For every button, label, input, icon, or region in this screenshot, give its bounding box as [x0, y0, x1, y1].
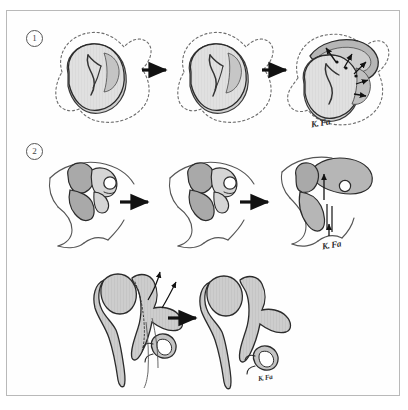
row2-panel3-group [281, 157, 372, 246]
row3-panel2-group [200, 276, 291, 389]
row2-panel1-group [49, 162, 134, 247]
row1-panel3-group [288, 34, 389, 125]
panel-number-2: 2 [26, 143, 43, 160]
row1-panel1-group [56, 32, 151, 122]
row1-panel2-group [178, 32, 273, 122]
figure-root: 1 [0, 0, 408, 410]
row2-panel2-group [169, 162, 254, 247]
illustration-canvas [0, 0, 408, 410]
row3-panel1-group [94, 272, 183, 388]
